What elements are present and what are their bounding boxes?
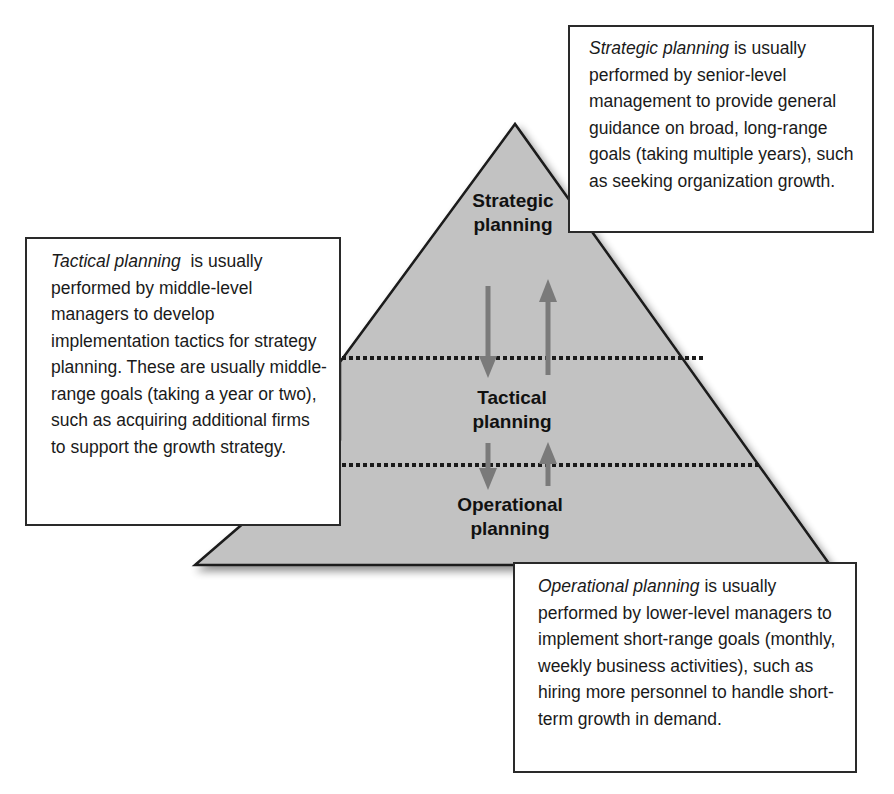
level-label-strategic: Strategic planning <box>448 189 578 237</box>
level-label-tactical: Tactical planning <box>447 386 577 434</box>
strategic-term: Strategic planning <box>589 38 729 58</box>
level-label-operational: Operational planning <box>435 493 585 541</box>
tactical-planning-description: Tactical planning is usually performed b… <box>25 237 341 526</box>
operational-term: Operational planning <box>538 576 700 596</box>
strategic-text: is usually performed by senior-level man… <box>589 38 854 191</box>
strategic-planning-description: Strategic planning is usually performed … <box>568 25 874 233</box>
tactical-text: is usually performed by middle-level man… <box>51 251 327 457</box>
tactical-term: Tactical planning <box>51 251 181 271</box>
operational-planning-description: Operational planning is usually performe… <box>513 562 857 773</box>
operational-text: is usually performed by lower-level mana… <box>538 576 835 729</box>
